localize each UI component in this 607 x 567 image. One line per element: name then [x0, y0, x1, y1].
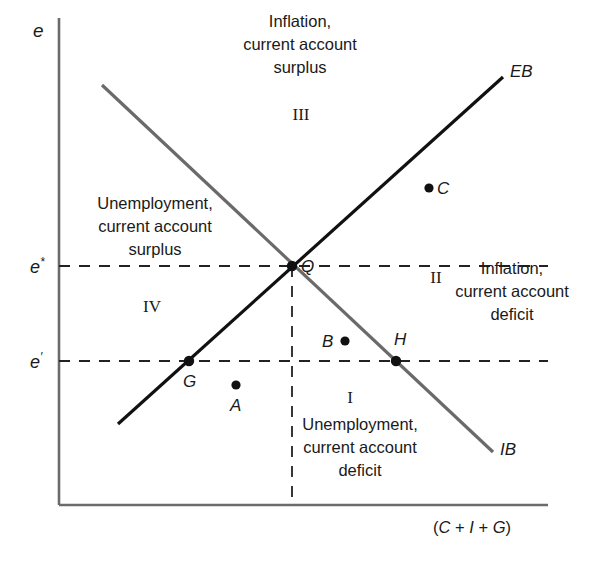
- curve-label-ib: IB: [500, 440, 516, 460]
- point-g-marker: [184, 356, 194, 366]
- point-q-marker: [287, 261, 297, 271]
- point-label-a: A: [230, 396, 241, 416]
- y-tick-e-prime-sup: ′: [40, 350, 42, 364]
- point-label-c: C: [437, 179, 449, 199]
- y-tick-label-e-prime: e′: [30, 350, 42, 373]
- quadrant-iv-numeral: IV: [132, 297, 172, 317]
- point-label-g: G: [183, 372, 196, 392]
- point-h-marker: [391, 356, 401, 366]
- point-label-b: B: [322, 332, 333, 352]
- quadrant-iv-text: Unemployment, current account surplus: [62, 192, 248, 261]
- point-label-q: Q: [301, 257, 314, 277]
- curve-label-eb: EB: [510, 62, 533, 82]
- x-axis-term-i: I: [469, 518, 474, 536]
- y-tick-e-prime-base: e: [30, 352, 40, 372]
- point-label-h: H: [394, 330, 406, 350]
- point-c-marker: [424, 183, 433, 192]
- quadrant-iii-text: Inflation, current account surplus: [180, 10, 420, 79]
- point-b-marker: [340, 336, 349, 345]
- y-axis-label: e: [33, 20, 44, 42]
- x-axis-term-g: G: [493, 518, 506, 536]
- quadrant-ii-text: Inflation, current account deficit: [421, 257, 603, 326]
- quadrant-iii-numeral: III: [281, 105, 321, 125]
- y-tick-e-star-base: e: [30, 257, 40, 277]
- economic-policy-swan-diagram: e e* e′ (C + I + G) EB IB Q C B H G A In…: [0, 0, 607, 567]
- y-tick-label-e-star: e*: [30, 255, 45, 278]
- y-tick-e-star-sup: *: [40, 255, 45, 269]
- quadrant-i-numeral: I: [332, 388, 368, 408]
- x-axis-label: (C + I + G): [433, 518, 511, 537]
- quadrant-i-text: Unemployment, current account deficit: [270, 413, 450, 482]
- point-a-marker: [231, 380, 240, 389]
- x-axis-term-c: C: [439, 518, 451, 536]
